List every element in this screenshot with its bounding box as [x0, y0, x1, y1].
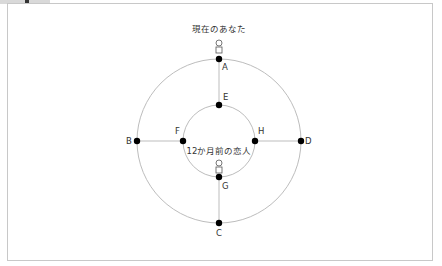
person-icon-top — [216, 40, 222, 53]
point-g-dot — [216, 174, 222, 180]
point-f-dot — [180, 138, 186, 144]
label-f: F — [175, 126, 180, 136]
top-label: 現在のあなた — [192, 24, 246, 34]
label-e: E — [223, 92, 228, 102]
point-e-dot — [216, 102, 222, 108]
label-h: H — [258, 126, 264, 136]
label-c: C — [216, 228, 222, 238]
center-label: 12か月前の恋人 — [187, 146, 252, 156]
point-d-dot — [298, 138, 304, 144]
point-c-dot — [216, 220, 222, 226]
point-b-dot — [134, 138, 140, 144]
point-h-dot — [252, 138, 258, 144]
label-g: G — [222, 181, 229, 191]
label-a: A — [222, 62, 228, 72]
label-d: D — [305, 136, 312, 146]
concentric-diagram: 現在のあなた 12か月前の恋人 A B C D E F G H — [0, 0, 442, 266]
label-b: B — [126, 136, 132, 146]
person-icon-center — [216, 160, 222, 173]
